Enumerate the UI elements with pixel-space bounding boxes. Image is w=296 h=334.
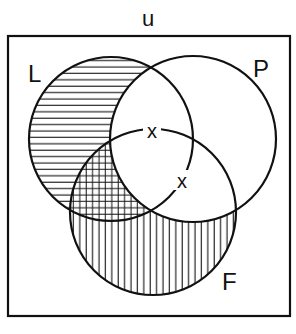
set-label-p: P: [253, 55, 269, 82]
universe-label: u: [142, 6, 154, 31]
venn-diagram: u x x L P F: [0, 0, 296, 334]
marker-x-2: x: [177, 170, 187, 192]
marker-x-1: x: [147, 120, 157, 142]
set-label-l: L: [28, 60, 41, 87]
set-label-f: F: [222, 268, 237, 295]
